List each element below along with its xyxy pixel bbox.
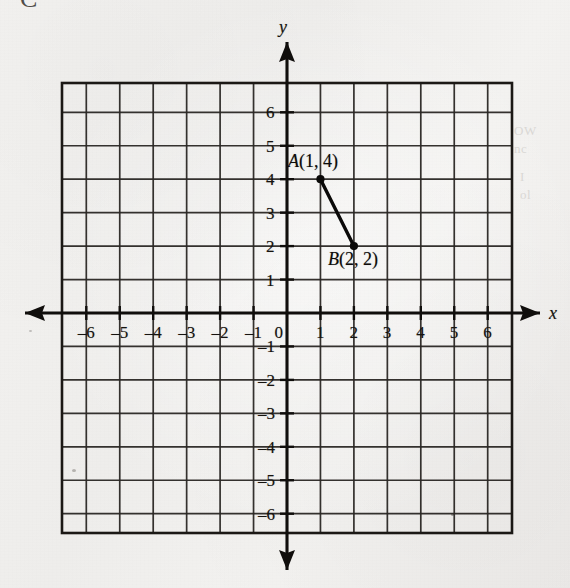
y-tick-label-3: 3: [266, 205, 275, 222]
x-tick-label--5: –5: [111, 324, 128, 341]
y-axis-label: y: [279, 18, 287, 36]
x-axis-label: x: [549, 304, 557, 322]
point-label-b: B(2, 2): [328, 250, 378, 268]
y-tick-label--2: –2: [258, 372, 275, 389]
x-axis-arrow-right: [520, 305, 540, 321]
x-tick-label-4: 4: [416, 324, 425, 341]
y-tick-label--5: –5: [258, 472, 275, 489]
y-tick-label--1: –1: [258, 338, 275, 355]
y-tick-label-2: 2: [266, 238, 275, 255]
y-tick-label-5: 5: [266, 138, 275, 155]
x-tick-label-0: 0: [275, 324, 284, 341]
x-tick-label-1: 1: [316, 324, 325, 341]
y-tick-label--6: –6: [258, 506, 275, 523]
point-label-a: A(1, 4): [288, 152, 338, 170]
x-tick-label-2: 2: [349, 324, 358, 341]
y-tick-label-1: 1: [266, 272, 275, 289]
y-tick-label--4: –4: [258, 439, 275, 456]
coordinate-plane-figure: [0, 0, 570, 588]
y-axis-arrow-up: [279, 42, 295, 62]
x-tick-label-3: 3: [383, 324, 392, 341]
y-axis-arrow-down: [279, 550, 295, 570]
x-tick-label-6: 6: [483, 324, 492, 341]
x-tick-label-5: 5: [450, 324, 459, 341]
y-tick-label-6: 6: [266, 104, 275, 121]
point-A: [316, 175, 324, 183]
y-tick-label--3: –3: [258, 405, 275, 422]
x-tick-label--3: –3: [178, 324, 195, 341]
y-tick-label-4: 4: [266, 171, 275, 188]
x-axis-arrow-left: [25, 305, 45, 321]
x-tick-label--6: –6: [78, 324, 95, 341]
x-tick-label--2: –2: [212, 324, 229, 341]
x-tick-label--4: –4: [145, 324, 162, 341]
